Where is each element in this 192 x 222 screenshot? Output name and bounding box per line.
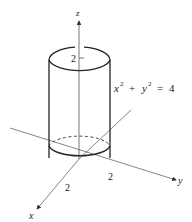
y-tick-label: 2	[108, 171, 113, 182]
z-axis-label: z	[75, 8, 80, 18]
cylinder-diagram: z y x 2 2 2 x 2 + y 2 = 4	[0, 0, 192, 222]
svg-text:2: 2	[120, 80, 124, 88]
equation-label: x 2 + y 2 = 4	[113, 80, 175, 94]
svg-text:x: x	[113, 82, 119, 94]
x-axis	[37, 159, 79, 209]
x-tick-label: 2	[65, 182, 70, 193]
z-tick-label: 2	[71, 53, 76, 64]
svg-text:4: 4	[169, 82, 175, 94]
svg-text:y: y	[141, 82, 147, 94]
svg-text:2: 2	[148, 80, 152, 88]
x-axis-back	[79, 110, 131, 159]
bottom-ellipse-back	[49, 136, 110, 146]
bottom-ellipse-front	[49, 146, 110, 156]
y-axis-label: y	[177, 175, 183, 186]
top-ellipse	[49, 47, 110, 70]
svg-text:=: =	[157, 82, 163, 94]
svg-text:+: +	[129, 82, 135, 94]
x-axis-label: x	[28, 210, 34, 221]
